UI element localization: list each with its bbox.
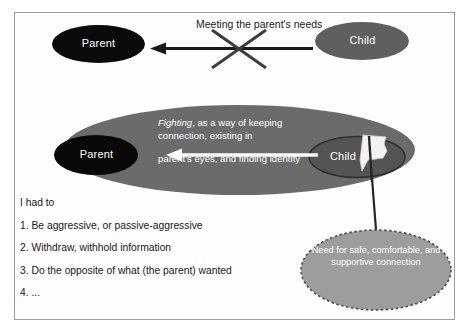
list-intro: I had to (20, 197, 270, 209)
top-arrow-head (150, 43, 166, 55)
list-item: 4. ... (20, 287, 270, 299)
need-connection-label: Need for safe, comfortable, and supporti… (311, 245, 441, 268)
fighting-caption-emphasis: Fighting (158, 117, 192, 128)
top-parent-ellipse (52, 25, 145, 63)
list-item: 1. Be aggressive, or passive-aggressive (20, 220, 270, 232)
fighting-caption-second: parent's eyes, and finding identity (158, 153, 300, 164)
fighting-caption: Fighting, as a way of keeping connection… (158, 117, 326, 166)
top-arrow-label: Meeting the parent's needs (196, 18, 322, 30)
diagram-canvas: Parent Child Meeting the parent's needs … (0, 0, 470, 336)
consequences-list: I had to 1. Be aggressive, or passive-ag… (20, 197, 270, 299)
middle-parent-ellipse (54, 135, 138, 175)
need-connection-ellipse (301, 230, 451, 310)
list-item: 3. Do the opposite of what (the parent) … (20, 265, 270, 277)
list-item: 2. Withdraw, withhold information (20, 242, 270, 254)
top-child-ellipse (315, 22, 409, 60)
fighting-caption-spacer (158, 142, 326, 153)
